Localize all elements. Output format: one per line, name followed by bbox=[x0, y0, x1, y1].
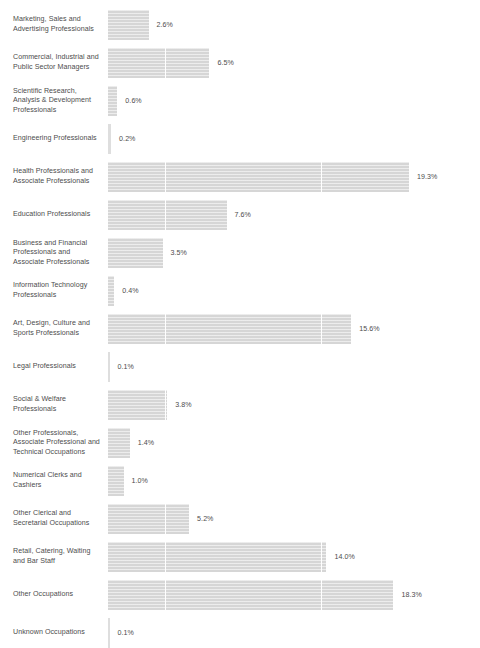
bar-wrapper: 1.4% bbox=[108, 428, 154, 458]
bar-wrapper: 0.6% bbox=[108, 86, 142, 116]
chart-row: Education Professionals7.6% bbox=[0, 196, 480, 234]
category-label: Business and Financial Professionals and… bbox=[0, 239, 108, 268]
bar-plot-area: 3.8% bbox=[108, 386, 480, 424]
bar-wrapper: 14.0% bbox=[108, 542, 355, 572]
bar-plot-area: 0.1% bbox=[108, 348, 480, 386]
bar-plot-area: 2.6% bbox=[108, 6, 480, 44]
bar-wrapper: 15.6% bbox=[108, 314, 380, 344]
bar-value-label: 5.2% bbox=[197, 515, 213, 523]
bar-value-label: 0.6% bbox=[125, 97, 141, 105]
bar bbox=[108, 580, 393, 610]
bar-value-label: 1.0% bbox=[132, 477, 148, 485]
bar-wrapper: 18.3% bbox=[108, 580, 422, 610]
category-label: Art, Design, Culture and Sports Professi… bbox=[0, 319, 108, 338]
chart-row: Retail, Catering, Waiting and Bar Staff1… bbox=[0, 538, 480, 576]
chart-row: Scientific Research, Analysis & Developm… bbox=[0, 82, 480, 120]
category-label: Legal Professionals bbox=[0, 362, 108, 372]
bar-wrapper: 1.0% bbox=[108, 466, 148, 496]
category-label: Numerical Clerks and Cashiers bbox=[0, 471, 108, 490]
bar bbox=[108, 352, 110, 382]
bar-segment-separator bbox=[165, 314, 166, 344]
bar-plot-area: 0.1% bbox=[108, 614, 480, 648]
category-label: Unknown Occupations bbox=[0, 628, 108, 638]
bar-value-label: 0.4% bbox=[122, 287, 138, 295]
bar bbox=[108, 314, 351, 344]
chart-row: Information Technology Professionals0.4% bbox=[0, 272, 480, 310]
bar-plot-area: 5.2% bbox=[108, 500, 480, 538]
bar-segment-separator bbox=[165, 504, 166, 534]
bar-segment-separator bbox=[165, 580, 166, 610]
bar-wrapper: 5.2% bbox=[108, 504, 213, 534]
bar-value-label: 1.4% bbox=[138, 439, 154, 447]
bar bbox=[108, 124, 111, 154]
bar-segment-separator bbox=[321, 542, 322, 572]
bar-wrapper: 19.3% bbox=[108, 162, 437, 192]
chart-row: Other Professionals, Associate Professio… bbox=[0, 424, 480, 462]
bar-plot-area: 18.3% bbox=[108, 576, 480, 614]
bar-value-label: 0.1% bbox=[118, 363, 134, 371]
bar-value-label: 3.5% bbox=[171, 249, 187, 257]
category-label: Retail, Catering, Waiting and Bar Staff bbox=[0, 547, 108, 566]
category-label: Other Professionals, Associate Professio… bbox=[0, 429, 108, 458]
bar-wrapper: 7.6% bbox=[108, 200, 251, 230]
bar bbox=[108, 10, 149, 40]
category-label: Scientific Research, Analysis & Developm… bbox=[0, 87, 108, 116]
bar-wrapper: 3.5% bbox=[108, 238, 187, 268]
bar-plot-area: 3.5% bbox=[108, 234, 480, 272]
bar-segment-separator bbox=[165, 542, 166, 572]
bar-value-label: 19.3% bbox=[417, 173, 437, 181]
bar-plot-area: 0.6% bbox=[108, 82, 480, 120]
bar bbox=[108, 504, 189, 534]
bar-segment-separator bbox=[165, 48, 166, 78]
bar-value-label: 18.3% bbox=[401, 591, 421, 599]
bar-plot-area: 14.0% bbox=[108, 538, 480, 576]
bar-segment-separator bbox=[165, 162, 166, 192]
chart-row: Art, Design, Culture and Sports Professi… bbox=[0, 310, 480, 348]
chart-row: Social & Welfare Professionals3.8% bbox=[0, 386, 480, 424]
bar bbox=[108, 48, 209, 78]
bar bbox=[108, 276, 114, 306]
bar-plot-area: 15.6% bbox=[108, 310, 480, 348]
bar-wrapper: 2.6% bbox=[108, 10, 173, 40]
category-label: Other Occupations bbox=[0, 590, 108, 600]
bar-value-label: 14.0% bbox=[334, 553, 354, 561]
chart-row: Marketing, Sales and Advertising Profess… bbox=[0, 6, 480, 44]
bar-plot-area: 7.6% bbox=[108, 196, 480, 234]
bar-value-label: 15.6% bbox=[359, 325, 379, 333]
bar-wrapper: 3.8% bbox=[108, 390, 192, 420]
bar-plot-area: 0.4% bbox=[108, 272, 480, 310]
bar bbox=[108, 428, 130, 458]
chart-row: Business and Financial Professionals and… bbox=[0, 234, 480, 272]
category-label: Information Technology Professionals bbox=[0, 281, 108, 300]
bar bbox=[108, 86, 117, 116]
chart-row: Health Professionals and Associate Profe… bbox=[0, 158, 480, 196]
bar-wrapper: 0.1% bbox=[108, 352, 134, 382]
bar-segment-separator bbox=[321, 580, 322, 610]
bar-segment-separator bbox=[321, 162, 322, 192]
chart-row: Commercial, Industrial and Public Sector… bbox=[0, 44, 480, 82]
bar-plot-area: 19.3% bbox=[108, 158, 480, 196]
bar bbox=[108, 542, 326, 572]
category-label: Engineering Professionals bbox=[0, 134, 108, 144]
chart-row: Legal Professionals0.1% bbox=[0, 348, 480, 386]
chart-row: Engineering Professionals0.2% bbox=[0, 120, 480, 158]
horizontal-bar-chart: Marketing, Sales and Advertising Profess… bbox=[0, 0, 480, 648]
category-label: Commercial, Industrial and Public Sector… bbox=[0, 53, 108, 72]
chart-row: Unknown Occupations0.1% bbox=[0, 614, 480, 648]
bar-value-label: 2.6% bbox=[157, 21, 173, 29]
bar bbox=[108, 466, 124, 496]
bar bbox=[108, 162, 409, 192]
chart-row: Numerical Clerks and Cashiers1.0% bbox=[0, 462, 480, 500]
category-label: Social & Welfare Professionals bbox=[0, 395, 108, 414]
category-label: Marketing, Sales and Advertising Profess… bbox=[0, 15, 108, 34]
bar bbox=[108, 238, 163, 268]
bar-plot-area: 6.5% bbox=[108, 44, 480, 82]
bar-segment-separator bbox=[165, 390, 166, 420]
category-label: Other Clerical and Secretarial Occupatio… bbox=[0, 509, 108, 528]
bar-value-label: 7.6% bbox=[235, 211, 251, 219]
bar-wrapper: 6.5% bbox=[108, 48, 234, 78]
bar-wrapper: 0.4% bbox=[108, 276, 139, 306]
bar-value-label: 3.8% bbox=[175, 401, 191, 409]
chart-row: Other Clerical and Secretarial Occupatio… bbox=[0, 500, 480, 538]
category-label: Education Professionals bbox=[0, 210, 108, 220]
